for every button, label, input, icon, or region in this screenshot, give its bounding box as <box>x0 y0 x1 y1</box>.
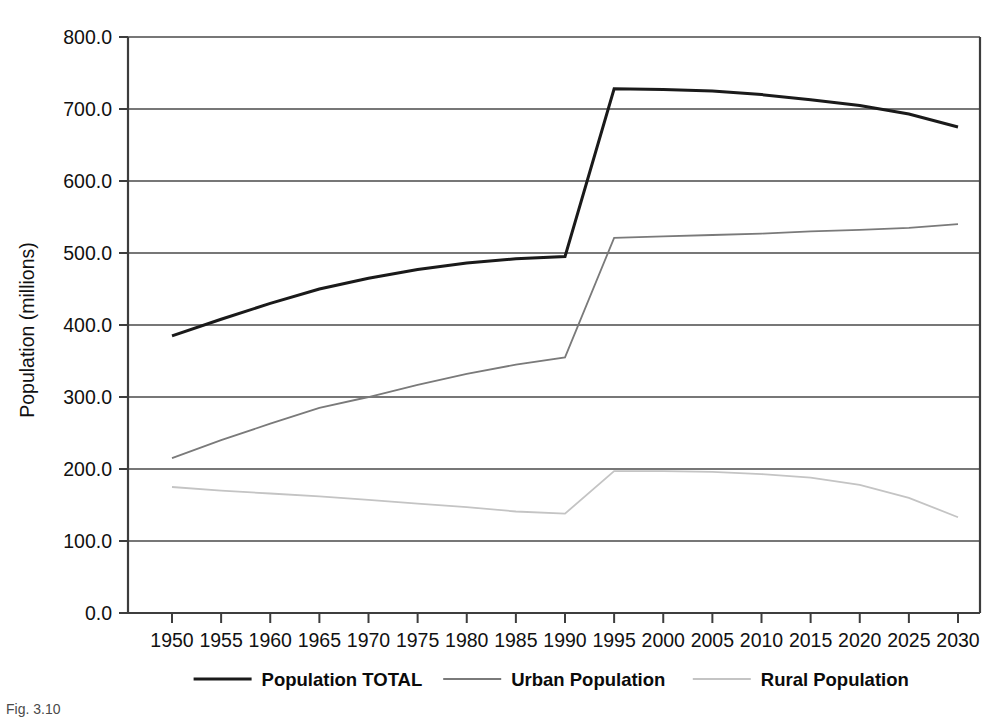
legend-label: Urban Population <box>511 669 665 690</box>
chart-legend: Population TOTALUrban PopulationRural Po… <box>194 669 909 690</box>
legend-label: Population TOTAL <box>262 669 423 690</box>
x-axis-tick-label: 2005 <box>691 629 735 651</box>
x-axis-tick-label: 2020 <box>838 629 882 651</box>
x-axis-tick-label: 1995 <box>592 629 636 651</box>
y-axis-tick-label: 300.0 <box>63 386 112 408</box>
figure-caption: Fig. 3.10 <box>6 701 61 717</box>
x-axis-tick-label: 2010 <box>740 629 784 651</box>
y-axis-tick-label: 400.0 <box>63 314 112 336</box>
x-axis-tick-label: 2025 <box>887 629 931 651</box>
population-line-chart: 0.0100.0200.0300.0400.0500.0600.0700.080… <box>0 0 1005 719</box>
figure-container: 0.0100.0200.0300.0400.0500.0600.0700.080… <box>0 0 1005 719</box>
y-axis-tick-label: 800.0 <box>63 26 112 48</box>
y-axis-tick-label: 200.0 <box>63 458 112 480</box>
y-axis-tick-labels: 0.0100.0200.0300.0400.0500.0600.0700.080… <box>63 26 112 624</box>
y-axis-tick-label: 700.0 <box>63 98 112 120</box>
x-axis-tick-label: 2000 <box>642 629 686 651</box>
x-axis-tick-label: 2030 <box>936 629 980 651</box>
x-axis-tick-label: 1960 <box>249 629 293 651</box>
y-axis-tick-label: 0.0 <box>85 602 112 624</box>
x-axis-tick-label: 1975 <box>396 629 440 651</box>
x-axis-tick-label: 1965 <box>298 629 342 651</box>
x-axis-tick-label: 1980 <box>445 629 489 651</box>
y-axis-tick-label: 100.0 <box>63 530 112 552</box>
y-axis-tick-label: 600.0 <box>63 170 112 192</box>
x-axis-tick-label: 1985 <box>494 629 538 651</box>
x-axis-tick-label: 1950 <box>150 629 194 651</box>
x-axis-tick-label: 1970 <box>347 629 391 651</box>
y-axis-tick-label: 500.0 <box>63 242 112 264</box>
chart-background <box>0 0 1005 719</box>
x-axis-tick-label: 1990 <box>543 629 587 651</box>
legend-label: Rural Population <box>761 669 909 690</box>
x-axis-tick-labels: 1950195519601965197019751980198519901995… <box>150 629 980 651</box>
y-axis-title: Population (millions) <box>16 242 38 418</box>
x-axis-tick-label: 2015 <box>789 629 833 651</box>
x-axis-tick-label: 1955 <box>199 629 243 651</box>
